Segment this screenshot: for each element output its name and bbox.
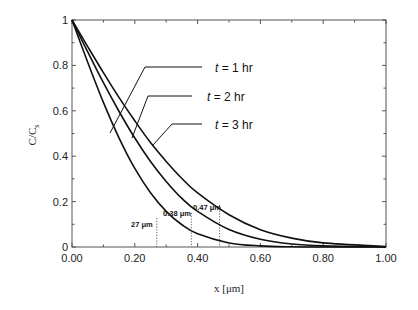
legend-leader-t2 xyxy=(132,96,192,138)
curve-t2 xyxy=(72,20,386,247)
depth-marker-label: 27 μm xyxy=(131,220,153,229)
y-tick-label: 0.4 xyxy=(53,150,68,162)
legend-label-t2: t = 2 hr xyxy=(207,90,245,104)
diffusion-profile-chart: 0.000.200.400.600.801.0000.20.40.60.81 2… xyxy=(0,0,418,310)
y-axis-title: C/Cs xyxy=(26,125,41,146)
y-tick-label: 0 xyxy=(62,241,68,253)
legend-leader-t3 xyxy=(153,124,202,145)
concentration-curves xyxy=(72,20,386,247)
curve-t1 xyxy=(72,20,386,247)
depth-marker-label: 0.38 μm xyxy=(163,209,191,218)
legend-label-t3: t = 3 hr xyxy=(215,118,253,132)
x-tick-label: 0.80 xyxy=(312,252,333,264)
plot-axes: 0.000.200.400.600.801.0000.20.40.60.81 xyxy=(53,14,397,264)
depth-marker-label: 0.47 μm xyxy=(193,203,221,212)
y-tick-label: 0.2 xyxy=(53,196,68,208)
plot-frame xyxy=(72,20,386,247)
curve-t3 xyxy=(72,20,386,247)
legend-leader-t1 xyxy=(110,67,202,133)
x-axis-title: x [μm] xyxy=(214,282,244,294)
y-tick-label: 0.8 xyxy=(53,59,68,71)
x-tick-label: 0.60 xyxy=(250,252,271,264)
x-tick-label: 1.00 xyxy=(375,252,396,264)
y-tick-label: 0.6 xyxy=(53,105,68,117)
x-tick-label: 0.40 xyxy=(187,252,208,264)
x-tick-label: 0.00 xyxy=(61,252,82,264)
depth-annotations: 27 μm0.38 μm0.47 μm xyxy=(131,203,221,247)
x-tick-label: 0.20 xyxy=(124,252,145,264)
y-tick-label: 1 xyxy=(62,14,68,26)
legend-label-t1: t = 1 hr xyxy=(215,61,253,75)
